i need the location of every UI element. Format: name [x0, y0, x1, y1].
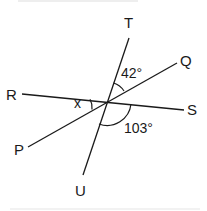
cropped-text-top — [18, 0, 138, 2]
angle-label-x: x — [74, 95, 81, 111]
line-pq — [28, 63, 177, 147]
label-p: P — [14, 141, 24, 158]
angle-label-42: 42° — [121, 65, 142, 81]
angle-label-103: 103° — [124, 120, 153, 136]
line-rs — [22, 94, 184, 110]
angle-diagram: T Q R S P U 42° 103° x — [0, 0, 207, 211]
label-r: R — [6, 86, 17, 103]
label-s: S — [187, 101, 197, 118]
angle-arc-tq — [114, 83, 125, 91]
label-t: T — [124, 14, 133, 31]
label-q: Q — [180, 52, 192, 69]
cropped-text-bottom — [10, 208, 200, 210]
line-tu — [83, 38, 129, 175]
label-u: U — [75, 182, 86, 199]
